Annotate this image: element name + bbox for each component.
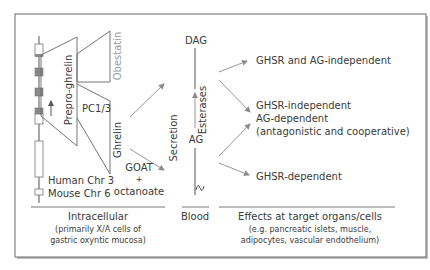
effect-2-line-1: GHSR-independent <box>256 100 351 111</box>
column-title-blood: Blood <box>181 211 209 222</box>
exon-box <box>35 114 43 124</box>
exon-box-grey <box>35 88 43 96</box>
column-sub-intracellular-1: (primarily X/A cells of <box>55 225 141 234</box>
exon-box <box>35 189 43 195</box>
prepro-ghrelin-label: Prepro-ghrelin <box>63 55 74 126</box>
exon-box <box>35 141 43 177</box>
gene-label-mouse: Mouse Chr 6 <box>48 188 111 199</box>
column-title-intracellular: Intracellular <box>68 211 129 222</box>
effect-2-line-3: (antagonistic and cooperative) <box>256 126 410 137</box>
column-title-target: Effects at target organs/cells <box>238 211 382 222</box>
ag-label: AG <box>189 134 203 145</box>
gene-label-human: Human Chr 3 <box>48 175 114 186</box>
effect-3-line-1: GHSR-dependent <box>256 171 342 182</box>
goat-label: GOAT <box>125 162 154 173</box>
esterases-label: Esterases <box>197 86 208 134</box>
dag-label: DAG <box>185 35 207 46</box>
ghrelin-pathway-diagram: Human Chr 3 Mouse Chr 6 Prepro-ghrelin O… <box>0 0 430 270</box>
effect-2-line-2: AG-dependent <box>256 113 328 124</box>
pc13-label: PC1/3 <box>82 103 111 114</box>
secretion-label: Secretion <box>168 114 179 161</box>
ghrelin-label: Ghrelin <box>112 122 123 158</box>
effect-1-line-1: GHSR and AG-independent <box>256 55 391 66</box>
plus-label: + <box>136 175 143 184</box>
octanoate-label: octanoate <box>114 186 164 197</box>
exon-box-grey <box>35 108 43 114</box>
column-sub-target-2: adipocytes, vascular endothelium) <box>241 236 379 245</box>
obestatin-label: Obestatin <box>112 32 123 81</box>
column-sub-target-1: (e.g. pancreatic islets, muscle, <box>249 225 371 234</box>
exon-box-grey <box>35 68 43 76</box>
column-sub-intracellular-2: gastric oxyntic mucosa) <box>50 236 146 245</box>
